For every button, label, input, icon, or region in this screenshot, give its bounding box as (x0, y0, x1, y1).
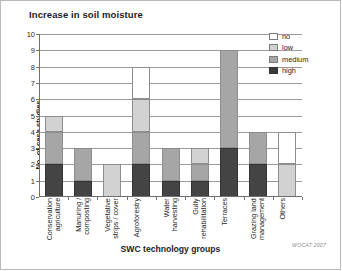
bar-segment-medium (220, 50, 238, 148)
y-tick-label: 2 (31, 160, 35, 169)
y-tick-label: 1 (31, 176, 35, 185)
legend-swatch-high (269, 67, 278, 74)
y-tick-label: 9 (31, 46, 35, 55)
bar-segment-low (132, 99, 150, 132)
chart-frame: Increase in soil moisture No. of case st… (0, 0, 341, 270)
legend: nolowmediumhigh (269, 32, 308, 75)
x-category-label: Vegetative strips / cover (104, 198, 120, 239)
legend-label: medium (282, 55, 308, 64)
bar-segment-high (191, 181, 209, 197)
legend-label: no (282, 32, 290, 41)
legend-item: medium (269, 55, 308, 64)
bar-column (278, 132, 296, 197)
bar-segment-high (132, 164, 150, 197)
y-tick-label: 6 (31, 95, 35, 104)
bar-column (191, 148, 209, 197)
legend-swatch-low (269, 44, 278, 51)
bar-column (249, 132, 267, 197)
legend-item: no (269, 32, 308, 41)
y-tick-label: 3 (31, 144, 35, 153)
bar-segment-medium (249, 132, 267, 165)
y-tick-label: 7 (31, 78, 35, 87)
legend-swatch-medium (269, 56, 278, 63)
legend-label: low (282, 43, 293, 52)
bar-segment-high (45, 164, 63, 197)
bar-column (220, 50, 238, 197)
bar-segment-low (45, 116, 63, 132)
x-category-label: Gully rehabilitation (192, 198, 208, 239)
bar-segment-medium (191, 164, 209, 180)
bar-segment-medium (74, 148, 92, 181)
bar-segment-high (162, 181, 180, 197)
bar-segment-low (191, 148, 209, 164)
x-axis-line (39, 196, 302, 197)
x-category-label: Terraces (221, 198, 229, 226)
bar-column (132, 67, 150, 197)
bar-segment-high (220, 148, 238, 197)
x-category-label: Agroforestry (133, 198, 141, 237)
legend-label: high (282, 66, 296, 75)
bar-segment-no (132, 67, 150, 100)
bar-segment-medium (45, 132, 63, 165)
bar-series-group (39, 34, 302, 197)
y-tick-label: 5 (31, 111, 35, 120)
y-tick-label: 0 (31, 193, 35, 202)
x-category-label: Water harvesting (163, 198, 179, 231)
y-tick-label: 4 (31, 127, 35, 136)
x-category-label: Manuring / composting (75, 198, 91, 235)
legend-swatch-no (269, 33, 278, 40)
bar-segment-low (278, 164, 296, 197)
x-axis-title: SWC technology groups (1, 244, 340, 254)
y-tick-label: 10 (27, 30, 35, 39)
bar-segment-medium (162, 148, 180, 181)
x-category-label: Conservation agriculture (46, 198, 62, 240)
x-category-label: Others (279, 198, 287, 220)
bar-segment-high (74, 181, 92, 197)
bar-segment-low (103, 164, 121, 197)
legend-item: low (269, 43, 308, 52)
bar-column (103, 164, 121, 197)
chart-title: Increase in soil moisture (29, 9, 143, 20)
y-tick-label: 8 (31, 62, 35, 71)
bar-segment-medium (132, 132, 150, 165)
y-axis-line (39, 34, 40, 197)
x-tick-mark (302, 197, 303, 200)
bar-segment-no (278, 132, 296, 165)
bar-segment-high (249, 164, 267, 197)
x-axis-category-labels: Conservation agricultureManuring / compo… (39, 198, 302, 244)
bar-column (45, 116, 63, 197)
bar-column (74, 148, 92, 197)
plot-area: 012345678910 (39, 34, 302, 197)
legend-item: high (269, 66, 308, 75)
x-category-label: Grazing land management (250, 198, 266, 240)
source-credit: WOCAT 2007 (292, 242, 326, 248)
bar-column (162, 148, 180, 197)
